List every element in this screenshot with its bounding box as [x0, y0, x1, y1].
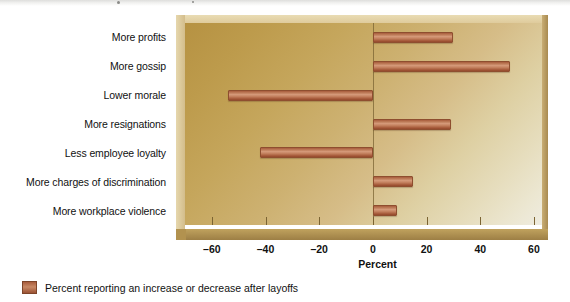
category-label: Less employee loyalty: [65, 147, 166, 159]
x-axis-tick: [266, 217, 267, 225]
category-axis-labels: More profitsMore gossipLower moraleMore …: [0, 23, 174, 225]
category-label: More charges of discrimination: [26, 176, 166, 188]
x-axis-tick: [534, 217, 535, 225]
bar: [373, 119, 451, 130]
frame-bevel-bottom: [176, 229, 548, 240]
x-axis-tick-label: 40: [474, 243, 486, 255]
category-label: More profits: [112, 31, 166, 43]
bar-chart-figure: More profitsMore gossipLower moraleMore …: [0, 0, 570, 302]
chart-legend: Percent reporting an increase or decreas…: [22, 281, 298, 294]
category-label: More workplace violence: [53, 205, 166, 217]
category-label: Lower morale: [104, 89, 166, 101]
x-axis-tick: [427, 217, 428, 225]
frame-bevel-corner: [176, 229, 186, 240]
x-axis-tick-label: –20: [310, 243, 328, 255]
bar: [373, 205, 397, 216]
legend-label: Percent reporting an increase or decreas…: [45, 282, 298, 294]
x-axis-title-text: Percent: [173, 258, 397, 270]
x-axis-tick: [373, 217, 374, 225]
bar: [260, 147, 373, 158]
x-axis-tick-label: 0: [370, 243, 376, 255]
category-label: More resignations: [84, 118, 166, 130]
frame-bevel-right: [542, 15, 548, 240]
legend-color-swatch: [22, 281, 37, 294]
x-axis-tick-label: 60: [528, 243, 540, 255]
frame-bevel-top: [176, 15, 548, 23]
frame-bevel-left: [176, 15, 185, 240]
category-label: More gossip: [110, 60, 166, 72]
x-axis-tick: [212, 217, 213, 225]
x-axis-tick-labels: –60–40–200204060: [176, 243, 548, 259]
x-axis-tick-label: –40: [257, 243, 275, 255]
x-axis-tick-label: –60: [203, 243, 221, 255]
bar: [373, 176, 413, 187]
bar: [228, 90, 373, 101]
x-axis-tick: [480, 217, 481, 225]
x-axis-tick-label: 20: [421, 243, 433, 255]
x-axis-title: Percent: [0, 258, 570, 270]
bar: [373, 61, 510, 72]
x-axis-tick: [319, 217, 320, 225]
bar: [373, 32, 454, 43]
plot-area: [185, 23, 542, 225]
